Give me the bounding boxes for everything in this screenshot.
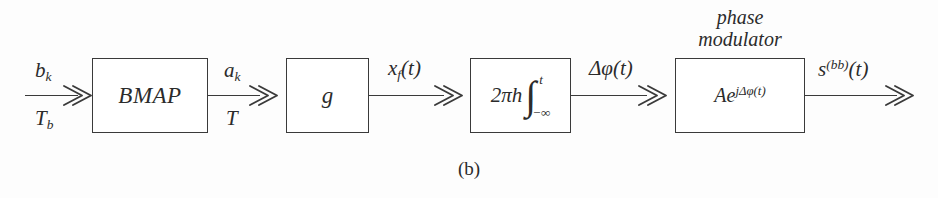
figure-caption: (b) bbox=[0, 158, 938, 180]
block-bmap-label: BMAP bbox=[118, 83, 181, 109]
signal-label-ak: ak bbox=[224, 60, 240, 83]
block-modulator-expression: AejΔφ(t) bbox=[714, 84, 765, 107]
signal-input-below-sub: b bbox=[47, 117, 54, 132]
block-modulator-caption: phase modulator bbox=[675, 6, 805, 51]
integrator-coefficient: 2πh bbox=[491, 83, 523, 108]
block-modulator-base: Ae bbox=[714, 84, 735, 106]
signal-label-input-below: Tb bbox=[35, 108, 53, 131]
signal-input-above-sub: k bbox=[46, 69, 52, 84]
block-modulator-caption-line2: modulator bbox=[675, 28, 805, 50]
block-modulator-exponent: jΔφ(t) bbox=[735, 84, 765, 98]
arrowhead-input bbox=[66, 95, 92, 96]
signal-xf-tail: (t) bbox=[401, 56, 421, 80]
signal-input-above-base: b bbox=[35, 58, 46, 82]
signal-ak-sub: k bbox=[235, 69, 241, 84]
arrowhead-bmap-to-g bbox=[252, 95, 278, 96]
integral-sign-icon: ∫ bbox=[525, 82, 536, 111]
block-modulator-caption-line1: phase bbox=[675, 6, 805, 28]
arrowhead-integrator-to-modulator bbox=[641, 95, 667, 96]
signal-output-base: s bbox=[818, 57, 826, 81]
block-diagram-figure: BMAP g 2πh ∫ t −∞ phase modulator AejΔφ(… bbox=[0, 0, 938, 198]
signal-output-sup: (bb) bbox=[826, 57, 848, 72]
block-bmap: BMAP bbox=[92, 58, 208, 133]
block-modulator: AejΔφ(t) bbox=[675, 58, 805, 133]
arrowhead-g-to-integrator bbox=[437, 95, 463, 96]
block-integrator: 2πh ∫ t −∞ bbox=[470, 58, 571, 133]
signal-output-tail: (t) bbox=[849, 57, 869, 81]
wire-integrator-to-modulator bbox=[571, 95, 647, 96]
signal-label-input-above: bk bbox=[35, 60, 51, 83]
signal-label-xf: xf(t) bbox=[388, 58, 421, 81]
block-g-label: g bbox=[322, 83, 334, 109]
signal-xf-base: x bbox=[388, 56, 397, 80]
signal-label-symbol-period: T bbox=[226, 108, 238, 129]
signal-ak-base: a bbox=[224, 58, 235, 82]
block-g: g bbox=[286, 58, 369, 133]
arrowhead-output bbox=[888, 95, 914, 96]
signal-input-below-base: T bbox=[35, 106, 47, 130]
signal-label-output: s(bb)(t) bbox=[818, 58, 868, 80]
integrator-expression: 2πh ∫ t −∞ bbox=[491, 72, 551, 120]
signal-label-delta-phi: Δφ(t) bbox=[589, 58, 633, 79]
